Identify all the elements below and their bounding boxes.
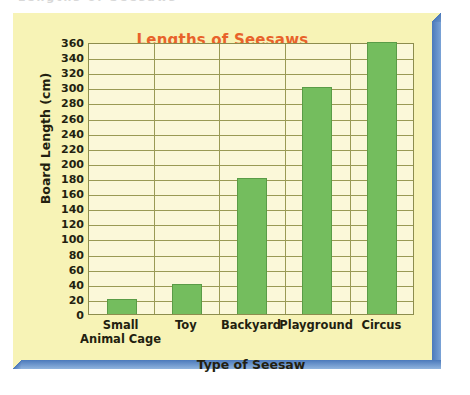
- y-axis-tick-220: 220: [42, 144, 84, 155]
- y-axis-tick-260: 260: [42, 114, 84, 125]
- category-divider-1: [154, 44, 155, 314]
- y-axis-tick-100: 100: [42, 234, 84, 245]
- y-axis-tick-280: 280: [42, 98, 84, 109]
- gridline-320: [89, 74, 413, 75]
- gridline-260: [89, 120, 413, 121]
- y-axis-tick-200: 200: [42, 159, 84, 170]
- gridline-200: [89, 165, 413, 166]
- y-axis-tick-60: 60: [42, 265, 84, 276]
- bar-backyard: [237, 178, 267, 314]
- y-axis-tick-80: 80: [42, 250, 84, 261]
- chart-card: Lengths of Seesaws Board Length (cm) 360…: [13, 13, 432, 360]
- card-shadow-right: [432, 22, 441, 368]
- gridline-280: [89, 104, 413, 105]
- bar-playground: [302, 87, 332, 314]
- bar-toy: [172, 284, 202, 314]
- category-divider-3: [285, 44, 286, 314]
- y-axis-tick-340: 340: [42, 53, 84, 64]
- scan-top-artifact: Lengths of Seesaws: [0, 0, 470, 7]
- x-axis-tick-circus: Circus: [337, 318, 426, 332]
- y-axis-tick-40: 40: [42, 280, 84, 291]
- category-divider-2: [219, 44, 220, 314]
- gridline-220: [89, 150, 413, 151]
- bar-circus: [367, 42, 397, 314]
- gridline-300: [89, 89, 413, 90]
- y-axis-tick-140: 140: [42, 204, 84, 215]
- y-axis-tick-20: 20: [42, 295, 84, 306]
- bar-small-animal-cage: [107, 299, 137, 314]
- x-axis-title: Type of Seesaw: [88, 357, 414, 372]
- y-axis-tick-320: 320: [42, 68, 84, 79]
- category-divider-4: [350, 44, 351, 314]
- y-axis-tick-240: 240: [42, 129, 84, 140]
- scan-ghost-text: Lengths of Seesaws: [18, 0, 177, 4]
- gridline-240: [89, 135, 413, 136]
- y-axis-tick-360: 360: [42, 38, 84, 49]
- y-axis-tick-120: 120: [42, 219, 84, 230]
- y-axis-tick-300: 300: [42, 83, 84, 94]
- plot-area: [88, 43, 414, 315]
- gridline-340: [89, 59, 413, 60]
- y-axis-tick-180: 180: [42, 174, 84, 185]
- y-axis-tick-160: 160: [42, 189, 84, 200]
